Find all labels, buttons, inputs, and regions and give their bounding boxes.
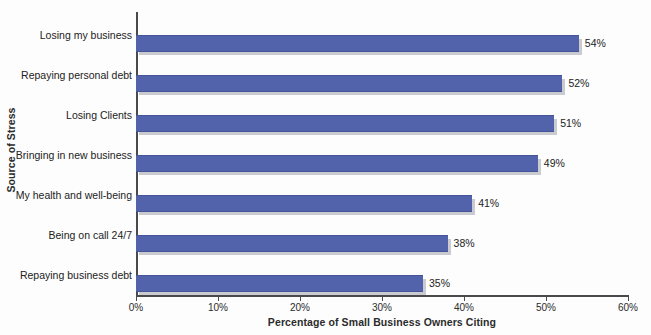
bar[interactable]: [136, 75, 562, 92]
x-tick-label: 10%: [208, 302, 228, 313]
bar-row: Losing Clients51%: [136, 98, 628, 138]
bar-value-label: 49%: [544, 156, 565, 171]
category-label: Losing my business: [40, 28, 132, 42]
bar-row: Bringing in new business49%: [136, 138, 628, 178]
bar[interactable]: [136, 35, 579, 52]
category-label: Losing Clients: [66, 108, 132, 122]
x-tick: [382, 296, 383, 301]
bar-row: My health and well-being41%: [136, 178, 628, 218]
category-label: My health and well-being: [16, 188, 132, 202]
x-tick: [300, 296, 301, 301]
category-label: Repaying personal debt: [21, 68, 132, 82]
bar-value-label: 54%: [585, 36, 606, 51]
x-tick: [136, 296, 137, 301]
bar[interactable]: [136, 195, 472, 212]
x-tick-label: 40%: [454, 302, 474, 313]
x-tick-label: 30%: [372, 302, 392, 313]
bar-value-label: 41%: [478, 196, 499, 211]
category-label: Bringing in new business: [16, 148, 132, 162]
category-label: Being on call 24/7: [49, 228, 132, 242]
bar-value-label: 51%: [560, 116, 581, 131]
bar-row: Losing my business54%: [136, 18, 628, 58]
bar-value-label: 38%: [454, 236, 475, 251]
bar[interactable]: [136, 155, 538, 172]
x-tick-label: 0%: [129, 302, 143, 313]
bar[interactable]: [136, 235, 448, 252]
x-tick-label: 20%: [290, 302, 310, 313]
bar-value-label: 35%: [429, 276, 450, 291]
x-axis-title: Percentage of Small Business Owners Citi…: [136, 316, 628, 328]
x-tick: [464, 296, 465, 301]
bar[interactable]: [136, 275, 423, 292]
x-tick: [218, 296, 219, 301]
bar-chart: Source of Stress Losing my business54%Re…: [0, 0, 651, 335]
x-tick: [628, 296, 629, 301]
bar-row: Repaying business debt35%: [136, 258, 628, 298]
category-label: Repaying business debt: [20, 268, 132, 282]
plot-area: Losing my business54%Repaying personal d…: [136, 12, 628, 295]
bar[interactable]: [136, 115, 554, 132]
bar-row: Repaying personal debt52%: [136, 58, 628, 98]
x-tick-label: 60%: [618, 302, 638, 313]
x-tick-label: 50%: [536, 302, 556, 313]
x-tick: [546, 296, 547, 301]
bar-row: Being on call 24/738%: [136, 218, 628, 258]
bar-value-label: 52%: [568, 76, 589, 91]
